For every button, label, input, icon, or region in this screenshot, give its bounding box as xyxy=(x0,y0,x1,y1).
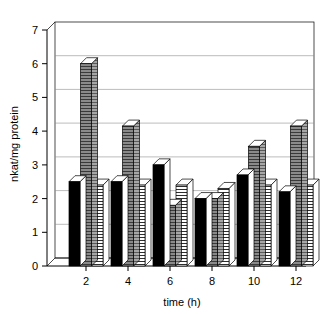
y-axis-tick-labels: 0 1 2 3 4 5 6 7 xyxy=(32,24,38,272)
bar-side-face xyxy=(290,186,296,266)
bar-2h-series-1 xyxy=(69,176,86,266)
bar-side-face xyxy=(176,199,182,266)
ytick-label-5: 5 xyxy=(32,91,38,103)
ytick-label-6: 6 xyxy=(32,58,38,70)
bar-8h-series-1 xyxy=(195,193,212,266)
frame-depth-topleft xyxy=(47,22,55,30)
bar-side-face xyxy=(248,169,254,266)
x-axis-ticks xyxy=(86,266,296,271)
xtick-label-1: 4 xyxy=(125,275,131,287)
ytick-label-4: 4 xyxy=(32,125,38,137)
bar-side-face xyxy=(80,176,86,266)
xtick-label-5: 12 xyxy=(290,275,302,287)
bar-4h-series-1 xyxy=(111,176,128,266)
bar-side-face xyxy=(313,179,319,266)
chart-figure: 0 1 2 3 4 5 6 7 xyxy=(0,0,327,314)
xtick-label-0: 2 xyxy=(83,275,89,287)
x-axis-tick-labels: 2 4 6 8 10 12 xyxy=(83,275,302,287)
bar-10h-series-1 xyxy=(237,169,254,266)
bar-side-face xyxy=(92,58,98,266)
bar-side-face xyxy=(145,179,151,266)
bar-front-face xyxy=(195,199,206,266)
bar-side-face xyxy=(206,193,212,266)
bar-side-face xyxy=(218,193,224,266)
x-axis-title: time (h) xyxy=(163,296,200,308)
bar-side-face xyxy=(164,159,170,266)
y-axis-title: nkat/mg protein xyxy=(8,106,20,182)
bar-chart-svg: 0 1 2 3 4 5 6 7 xyxy=(0,0,327,314)
bar-side-face xyxy=(271,179,277,266)
bar-front-face xyxy=(279,192,290,266)
ytick-label-2: 2 xyxy=(32,193,38,205)
xtick-label-4: 10 xyxy=(248,275,260,287)
bar-side-face xyxy=(122,176,128,266)
bars-layer xyxy=(69,58,319,266)
bar-6h-series-1 xyxy=(153,159,170,266)
ytick-label-1: 1 xyxy=(32,226,38,238)
bar-side-face xyxy=(134,120,140,266)
frame-depth-bottomleft xyxy=(47,258,55,266)
y-axis-ticks xyxy=(42,30,47,266)
bar-side-face xyxy=(187,179,193,266)
bar-side-face xyxy=(103,179,109,266)
ytick-label-0: 0 xyxy=(32,260,38,272)
ytick-label-3: 3 xyxy=(32,159,38,171)
bar-12h-series-1 xyxy=(279,186,296,266)
bar-front-face xyxy=(111,182,122,266)
ytick-label-7: 7 xyxy=(32,24,38,36)
bar-front-face xyxy=(69,182,80,266)
bar-front-face xyxy=(237,175,248,266)
xtick-label-2: 6 xyxy=(167,275,173,287)
bar-front-face xyxy=(153,165,164,266)
bar-side-face xyxy=(302,120,308,266)
bar-side-face xyxy=(260,140,266,266)
bar-side-face xyxy=(229,182,235,266)
xtick-label-3: 8 xyxy=(209,275,215,287)
